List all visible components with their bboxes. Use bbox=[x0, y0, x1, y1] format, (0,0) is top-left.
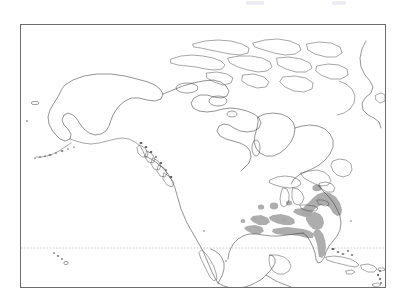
coastline-newfoundland bbox=[331, 159, 352, 177]
map-frame bbox=[20, 24, 386, 288]
distribution-range-group bbox=[241, 185, 342, 258]
coastline-st-lawrence-island bbox=[31, 101, 39, 104]
coastline-puerto-rico bbox=[378, 268, 385, 271]
coastline-cuba bbox=[326, 256, 359, 267]
coastline-islet-pacific bbox=[203, 230, 204, 231]
coastline-alaska-peninsula bbox=[70, 138, 145, 156]
coastline-jamaica bbox=[346, 270, 355, 274]
header-artifact-mark-2 bbox=[332, 1, 346, 5]
coastline-labrador bbox=[291, 125, 333, 184]
coastline-lesser-antilles bbox=[377, 270, 382, 284]
range-patch-ozark bbox=[250, 215, 270, 225]
coastline-yucatan bbox=[269, 255, 291, 274]
coastline-islet-atlantic bbox=[225, 260, 226, 261]
coastline-alaska-peninsula-lower bbox=[36, 143, 71, 157]
coastline-west-coast bbox=[145, 156, 218, 283]
coastline-hispaniola bbox=[361, 264, 377, 272]
coastline-gulf-st-lawrence bbox=[301, 170, 331, 186]
coastline-bahamas bbox=[331, 248, 353, 256]
figure-canvas bbox=[0, 0, 409, 301]
coastline-central-america bbox=[266, 275, 291, 287]
range-dot-3 bbox=[258, 204, 264, 209]
range-dot-4 bbox=[312, 185, 321, 191]
coastline-canada-north bbox=[163, 80, 261, 171]
coastline-aleutian-islands bbox=[34, 146, 75, 158]
range-dot-1 bbox=[270, 203, 278, 210]
coastline-mexico-south bbox=[218, 255, 275, 287]
map-illustration bbox=[21, 25, 385, 287]
range-patch-east-texas bbox=[244, 225, 264, 234]
coastline-greenland bbox=[360, 41, 381, 128]
lake-huron bbox=[292, 188, 304, 205]
range-patch-gulf-coast bbox=[272, 227, 314, 238]
header-artifact-mark-1 bbox=[246, 1, 264, 5]
coastline-islet-bermuda bbox=[350, 220, 351, 221]
range-dot-6 bbox=[241, 219, 246, 223]
coastline-mexico-west bbox=[211, 249, 224, 283]
coastline-nova-scotia bbox=[319, 182, 335, 192]
coastline-arctic-archipelago bbox=[171, 39, 348, 156]
coastline-greenland-islet bbox=[376, 93, 385, 103]
coastline-alaska bbox=[48, 74, 163, 141]
coastline-bering-islet-1 bbox=[26, 120, 28, 122]
coastline-baffin-east bbox=[337, 81, 355, 115]
coastline-group bbox=[26, 39, 385, 287]
coastline-trinidad bbox=[373, 283, 381, 287]
lake-superior bbox=[270, 176, 301, 188]
coastline-gulf-north bbox=[228, 233, 303, 259]
header-artifact-strip bbox=[0, 0, 409, 14]
coastline-bc-islands bbox=[137, 142, 174, 187]
range-dot-5 bbox=[281, 218, 286, 222]
coastline-hawaiian-islands bbox=[53, 252, 68, 264]
coastline-caribbean-islands bbox=[326, 248, 385, 287]
